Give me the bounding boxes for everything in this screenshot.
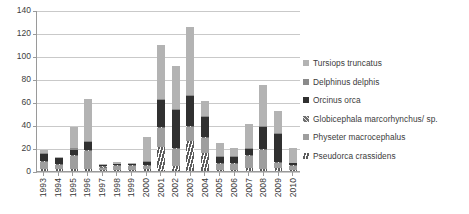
bar-column[interactable]: [242, 11, 257, 171]
x-axis-label-cell: 1994: [51, 178, 66, 212]
stacked-bar[interactable]: [259, 85, 267, 171]
stacked-bar[interactable]: [157, 45, 165, 171]
x-axis-tick: [197, 172, 212, 176]
legend-swatch-icon: [303, 97, 309, 103]
stacked-bar[interactable]: [201, 101, 209, 171]
x-axis-label-cell: 1995: [65, 178, 80, 212]
bar-segment: [157, 100, 165, 128]
x-axis-label: 1999: [126, 178, 136, 197]
x-axis-tick: [168, 172, 183, 176]
stacked-bar[interactable]: [186, 27, 194, 171]
bar-segment: [201, 117, 209, 137]
plot-area: 020406080100120140: [36, 11, 300, 172]
x-axis-tick: [80, 172, 95, 176]
legend-label: Tursiops truncatus: [313, 58, 382, 68]
bar-column[interactable]: [212, 11, 227, 171]
bar-column[interactable]: [66, 11, 81, 171]
bar-column[interactable]: [95, 11, 110, 171]
legend-item[interactable]: Physeter macrocephalus: [303, 129, 469, 145]
x-axis-label: 1995: [68, 178, 78, 197]
bar-segment: [157, 128, 165, 146]
x-axis-labels: 1993199419951996199719981999200020012002…: [36, 178, 300, 212]
stacked-bar[interactable]: [245, 124, 253, 171]
x-axis-label: 2004: [200, 178, 210, 197]
legend-label: Delphinus delphis: [313, 77, 379, 87]
legend-item[interactable]: Tursiops truncatus: [303, 55, 469, 71]
y-axis-tick-label: 80: [5, 74, 31, 84]
stacked-bar[interactable]: [172, 66, 180, 171]
x-axis-tick: [36, 172, 51, 176]
legend-label: Pseudorca crassidens: [313, 151, 396, 161]
bar-segment: [172, 166, 180, 171]
bar-column[interactable]: [37, 11, 52, 171]
x-axis-label: 2005: [214, 178, 224, 197]
stacked-bar[interactable]: [70, 127, 78, 171]
stacked-bar[interactable]: [274, 111, 282, 171]
legend-swatch-icon: [303, 60, 309, 66]
bar-column[interactable]: [81, 11, 96, 171]
legend-item[interactable]: Globicephala marcorhynchus/ sp.: [303, 111, 469, 127]
stacked-bar[interactable]: [216, 143, 224, 171]
stacked-bar[interactable]: [128, 163, 136, 171]
x-axis-tick: [183, 172, 198, 176]
x-axis-tick: [65, 172, 80, 176]
x-axis-ticks: [36, 172, 300, 176]
stacked-bar[interactable]: [230, 148, 238, 171]
bar-column[interactable]: [183, 11, 198, 171]
bar-column[interactable]: [154, 11, 169, 171]
x-axis-tick: [51, 172, 66, 176]
bar-segment: [186, 127, 194, 141]
bar-column[interactable]: [198, 11, 213, 171]
x-axis-label-cell: 2005: [212, 178, 227, 212]
bar-column[interactable]: [256, 11, 271, 171]
y-axis-tick-label: 100: [5, 51, 31, 61]
bar-column[interactable]: [110, 11, 125, 171]
bar-segment: [259, 85, 267, 126]
bar-column[interactable]: [168, 11, 183, 171]
bar-segment: [40, 169, 48, 171]
x-axis-label: 1998: [112, 178, 122, 197]
x-axis-label: 2008: [258, 178, 268, 197]
bar-segment: [245, 124, 253, 148]
x-axis-label-cell: 2007: [241, 178, 256, 212]
stacked-bar[interactable]: [143, 137, 151, 171]
bar-segment: [172, 110, 180, 148]
x-axis-label: 2009: [273, 178, 283, 197]
bar-segment: [70, 127, 78, 148]
legend-item[interactable]: Pseudorca crassidens: [303, 148, 469, 164]
legend-item[interactable]: Delphinus delphis: [303, 74, 469, 90]
bar-series-group: [37, 11, 300, 171]
legend-item[interactable]: Orcinus orca: [303, 92, 469, 108]
x-axis-label-cell: 2004: [197, 178, 212, 212]
bar-segment: [172, 149, 180, 166]
bar-column[interactable]: [285, 11, 300, 171]
x-axis-tick: [271, 172, 286, 176]
bar-column[interactable]: [125, 11, 140, 171]
x-axis-label-cell: 2000: [139, 178, 154, 212]
x-axis-label: 2007: [244, 178, 254, 197]
bar-column[interactable]: [139, 11, 154, 171]
bar-segment: [201, 138, 209, 153]
bar-column[interactable]: [52, 11, 67, 171]
bar-segment: [128, 170, 136, 171]
stacked-bar[interactable]: [289, 148, 297, 171]
stacked-bar[interactable]: [55, 157, 63, 171]
x-axis-tick: [139, 172, 154, 176]
bar-segment: [245, 168, 253, 171]
x-axis-tick: [285, 172, 300, 176]
x-axis-label-cell: 1993: [36, 178, 51, 212]
stacked-bar[interactable]: [40, 150, 48, 171]
stacked-bar[interactable]: [84, 99, 92, 171]
bar-column[interactable]: [227, 11, 242, 171]
chart-legend: Tursiops truncatusDelphinus delphisOrcin…: [303, 55, 469, 166]
x-axis-tick: [241, 172, 256, 176]
x-axis-label: 2000: [141, 178, 151, 197]
stacked-bar-chart: 020406080100120140 199319941995199619971…: [0, 0, 469, 214]
bar-column[interactable]: [271, 11, 286, 171]
bar-segment: [245, 156, 253, 168]
x-axis-label-cell: 2002: [168, 178, 183, 212]
bar-segment: [186, 27, 194, 95]
stacked-bar[interactable]: [99, 164, 107, 171]
stacked-bar[interactable]: [113, 162, 121, 171]
x-axis-label-cell: 2008: [256, 178, 271, 212]
